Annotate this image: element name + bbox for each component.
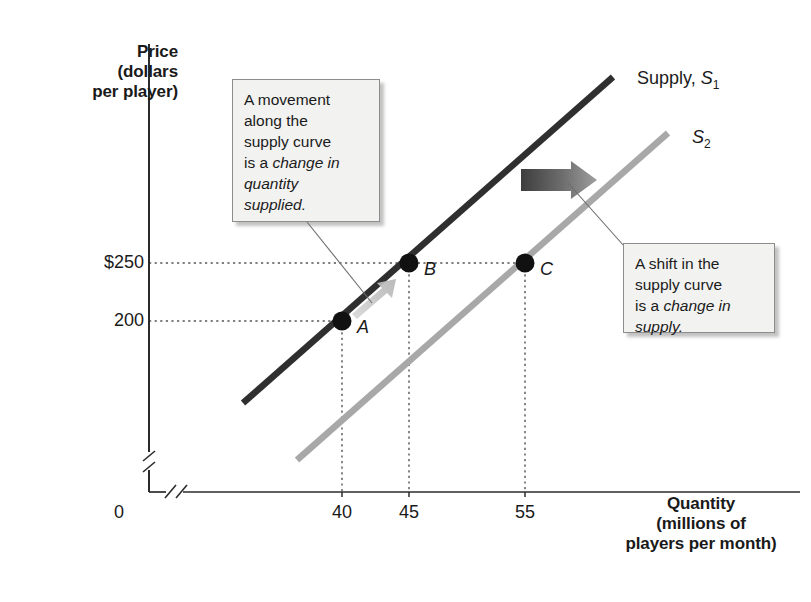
movement-callout-line-5-italic: quantity: [244, 175, 298, 192]
data-point-b: [400, 254, 419, 273]
shift-callout-line-4: supply.: [635, 316, 764, 337]
data-point-a: [333, 312, 352, 331]
movement-callout-line-4-plain: is a: [244, 154, 272, 171]
curve-label-supply-1-symbol: S: [701, 68, 713, 88]
shift-callout-line-3: is a change in: [635, 295, 764, 316]
curve-label-supply-2-subscript: 2: [704, 137, 711, 151]
y-axis-break-icon: [143, 451, 155, 472]
curve-label-supply-1-subscript: 1: [713, 78, 720, 92]
shift-callout: A shift in the supply curve is a change …: [623, 243, 775, 333]
movement-callout-line-5: quantity: [244, 173, 369, 194]
movement-callout-line-4: is a change in: [244, 152, 369, 173]
x-tick-label-55: 55: [500, 502, 550, 523]
movement-callout-line-6-italic: supplied.: [244, 196, 306, 213]
y-tick-label-200: 200: [78, 310, 144, 331]
origin-label: 0: [104, 502, 134, 523]
shift-callout-line-1: A shift in the: [635, 253, 764, 274]
movement-callout-line-6: supplied.: [244, 194, 369, 215]
movement-callout: A movement along the supply curve is a c…: [232, 79, 380, 222]
x-tick-label-40: 40: [317, 502, 367, 523]
y-tick-label-250: $250: [78, 252, 144, 273]
shift-callout-line-3-italic: change in: [663, 297, 730, 314]
shift-callout-line-2: supply curve: [635, 274, 764, 295]
x-tick-label-45: 45: [384, 502, 434, 523]
data-point-c: [516, 254, 535, 273]
data-point-label-b: B: [424, 259, 436, 280]
curve-label-supply-1: Supply, S1: [617, 47, 719, 113]
movement-callout-line-3: supply curve: [244, 131, 369, 152]
x-axis-title: Quantity(millions ofplayers per month): [596, 494, 806, 554]
shift-arrow: [521, 161, 597, 199]
movement-callout-line-1: A movement: [244, 89, 369, 110]
shift-callout-line-4-italic: supply.: [635, 318, 683, 335]
curve-label-supply-2: S2: [672, 106, 711, 172]
y-axis-title: Price(dollarsper player): [28, 42, 178, 102]
curve-label-supply-1-prefix: Supply,: [637, 68, 701, 88]
data-point-label-c: C: [540, 259, 553, 280]
y-axis: [143, 44, 155, 492]
curve-label-supply-2-symbol: S: [692, 127, 704, 147]
shift-callout-line-3-plain: is a: [635, 297, 663, 314]
supply-curve-figure: Price(dollarsper player) Quantity(millio…: [0, 0, 811, 602]
movement-callout-line-2: along the: [244, 110, 369, 131]
data-point-label-a: A: [357, 317, 369, 338]
movement-callout-line-4-italic: change in: [272, 154, 339, 171]
